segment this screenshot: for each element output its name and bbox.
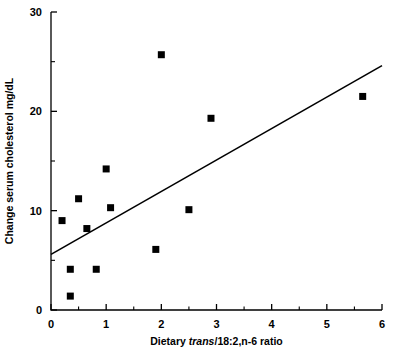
y-axis-title: Change serum cholesterol mg/dL <box>3 77 15 244</box>
chart-canvas: 0123456 0102030 Dietary trans/18:2,n-6 r… <box>0 0 396 353</box>
data-point <box>152 246 159 253</box>
data-point <box>185 206 192 213</box>
regression-trend-line <box>51 66 382 255</box>
data-point <box>59 217 66 224</box>
axis-spines <box>51 12 382 310</box>
y-axis-tick-labels: 0102030 <box>30 6 42 316</box>
y-tick-label: 30 <box>30 6 42 18</box>
data-point-markers <box>59 51 367 299</box>
data-point <box>83 225 90 232</box>
y-axis-label-text: Change serum cholesterol mg/dL <box>3 77 15 244</box>
trend-line-segment <box>51 66 382 255</box>
y-tick-label: 0 <box>36 304 42 316</box>
scatter-plot-figure: 0123456 0102030 Dietary trans/18:2,n-6 r… <box>0 0 396 353</box>
x-axis-tick-labels: 0123456 <box>48 318 385 330</box>
y-tick-label: 10 <box>30 205 42 217</box>
x-axis-title: Dietary trans/18:2,n-6 ratio <box>150 335 283 347</box>
x-tick-label: 6 <box>379 318 385 330</box>
x-tick-label: 1 <box>103 318 109 330</box>
x-tick-label: 2 <box>158 318 164 330</box>
y-tick-label: 20 <box>30 105 42 117</box>
data-point <box>93 266 100 273</box>
data-point <box>107 204 114 211</box>
x-tick-label: 0 <box>48 318 54 330</box>
data-point <box>75 195 82 202</box>
data-point <box>103 165 110 172</box>
axis-ticks <box>51 12 382 310</box>
data-point <box>67 266 74 273</box>
data-point <box>67 293 74 300</box>
axes <box>51 12 382 310</box>
x-tick-label: 5 <box>324 318 330 330</box>
x-axis-label-text: Dietary trans/18:2,n-6 ratio <box>150 335 283 347</box>
data-point <box>359 93 366 100</box>
data-point <box>158 51 165 58</box>
x-tick-label: 3 <box>213 318 219 330</box>
data-point <box>207 115 214 122</box>
x-tick-label: 4 <box>269 318 276 330</box>
